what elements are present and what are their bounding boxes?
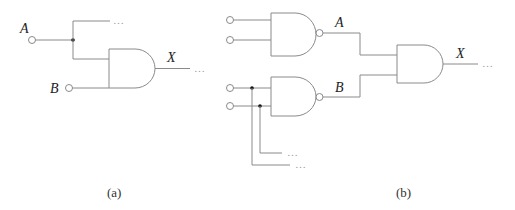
input-terminal-3 — [227, 85, 234, 92]
continuation-output: … — [194, 62, 206, 74]
input-label-b: B — [50, 81, 59, 96]
intermediate-label-a: A — [334, 15, 344, 30]
figure-b: A … … B X … (b) — [227, 13, 495, 200]
output-label-x: X — [166, 50, 176, 65]
input-terminal-1 — [227, 17, 234, 24]
continuation-output: … — [482, 57, 494, 69]
nand-bubble-top — [316, 30, 323, 37]
input-terminal-a — [29, 37, 36, 44]
caption-b: (b) — [396, 185, 411, 200]
logic-diagram: A … B X … (a) A … … — [0, 0, 515, 210]
caption-a: (a) — [107, 185, 121, 200]
nand-gate-bottom — [271, 77, 316, 116]
input-label-a: A — [19, 21, 29, 36]
wire-a-out — [323, 33, 397, 55]
wire-a-to-gate — [73, 40, 109, 59]
output-label-x: X — [455, 46, 465, 61]
input-terminal-4 — [227, 103, 234, 110]
continuation-branch-1: … — [295, 158, 307, 170]
nand-bubble-bottom — [316, 94, 323, 101]
continuation-branch-2: … — [287, 146, 299, 158]
input-terminal-b — [66, 85, 73, 92]
wire-a-branch-up — [73, 21, 110, 40]
input-terminal-2 — [227, 37, 234, 44]
figure-a: A … B X … (a) — [19, 14, 206, 200]
nand-gate-top — [271, 13, 316, 56]
intermediate-label-b: B — [335, 80, 344, 95]
and-gate — [109, 49, 155, 88]
continuation-top: … — [113, 14, 125, 26]
and-gate-final — [397, 45, 443, 83]
